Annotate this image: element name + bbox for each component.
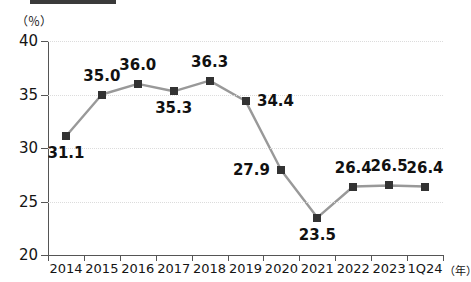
- data-point-marker: [277, 166, 285, 174]
- plot-area: 202530354031.135.036.035.336.334.427.923…: [48, 41, 443, 255]
- data-point-label: 31.1: [47, 144, 84, 162]
- data-point-label: 36.3: [191, 53, 228, 71]
- data-point-marker: [170, 87, 178, 95]
- x-axis-label: 2023: [373, 261, 406, 276]
- x-axis-label: 2014: [49, 261, 82, 276]
- data-point-label: 26.4: [407, 159, 444, 177]
- x-axis-label: 1Q24: [408, 261, 443, 276]
- gridline: [48, 202, 443, 204]
- x-axis-tick: [443, 255, 444, 261]
- data-point-marker: [421, 183, 429, 191]
- x-axis-label: 2018: [193, 261, 226, 276]
- x-axis-line: [48, 255, 444, 256]
- gridline: [48, 41, 443, 43]
- data-point-label: 26.4: [335, 159, 372, 177]
- data-point-marker: [206, 77, 214, 85]
- data-point-label: 36.0: [119, 56, 156, 74]
- y-axis-tick: [41, 95, 48, 96]
- y-axis-label: 30: [19, 139, 38, 157]
- y-axis-tick: [41, 202, 48, 203]
- data-point-label: 35.3: [155, 99, 192, 117]
- y-axis-label: 40: [19, 32, 38, 50]
- data-point-marker: [242, 97, 250, 105]
- data-point-marker: [349, 183, 357, 191]
- x-axis-label: 2020: [265, 261, 298, 276]
- y-axis-label: 20: [19, 246, 38, 264]
- data-point-label: 35.0: [83, 67, 120, 85]
- data-point-label: 26.5: [371, 157, 408, 175]
- data-point-marker: [134, 80, 142, 88]
- y-axis-label: 25: [19, 193, 38, 211]
- data-point-marker: [62, 132, 70, 140]
- data-point-label: 27.9: [233, 161, 270, 179]
- x-axis-label: 2019: [229, 261, 262, 276]
- line-chart: （％） 202530354031.135.036.035.336.334.427…: [0, 0, 471, 282]
- data-point-marker: [385, 181, 393, 189]
- x-axis-label: 2016: [121, 261, 154, 276]
- x-axis-unit-label: （年）: [444, 262, 471, 278]
- title-underline-remnant: [30, 0, 116, 4]
- y-axis-tick: [41, 255, 48, 256]
- data-point-marker: [98, 91, 106, 99]
- x-axis-label: 2017: [157, 261, 190, 276]
- data-point-label: 34.4: [257, 92, 294, 110]
- y-axis-tick: [41, 41, 48, 42]
- y-axis-label: 35: [19, 86, 38, 104]
- data-point-label: 23.5: [299, 226, 336, 244]
- x-axis-label: 2015: [85, 261, 118, 276]
- y-axis-unit-label: （％）: [16, 12, 52, 29]
- gridline: [48, 148, 443, 150]
- x-axis-label: 2022: [337, 261, 370, 276]
- data-point-marker: [313, 214, 321, 222]
- x-axis-label: 2021: [301, 261, 334, 276]
